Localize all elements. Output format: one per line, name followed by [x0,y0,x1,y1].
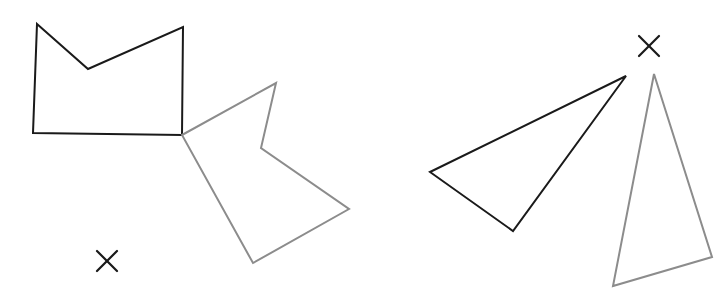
rotation-center-left-x-icon [97,251,117,271]
original-pentagon [33,24,183,135]
original-triangle [430,76,626,231]
rotated-pentagon-image [182,83,349,263]
rotation-center-right-x-icon [639,36,659,56]
rotated-triangle-image [613,74,712,286]
diagram-svg [0,0,725,302]
diagram-canvas [0,0,725,302]
